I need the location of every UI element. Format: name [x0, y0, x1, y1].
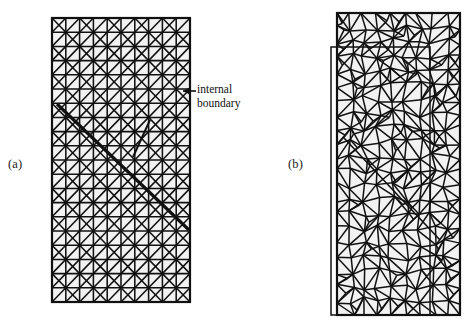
mesh-b-edge [447, 84, 460, 85]
mesh-b-edge [351, 242, 366, 258]
mesh-a-diagonal-edge [93, 259, 107, 273]
mesh-b-edge [405, 301, 419, 303]
mesh-b-edge [421, 130, 434, 145]
mesh-b-edge [402, 100, 421, 102]
mesh-b-edge [417, 230, 436, 245]
mesh-b-edge [365, 169, 377, 183]
mesh-a-diagonal-edge [93, 132, 107, 146]
mesh-b-edge [421, 82, 428, 88]
mesh-b-edge [395, 196, 408, 202]
mesh-b-edge [337, 245, 349, 257]
mesh-b-edge [337, 13, 350, 31]
mesh-a-diagonal-edge [149, 259, 163, 273]
mesh-b-edge [346, 128, 351, 135]
mesh-b-edge [337, 40, 353, 56]
mesh-b-edge [353, 74, 365, 82]
mesh-b-edge [448, 229, 460, 230]
mesh-a-diagonal-edge [121, 203, 135, 217]
mesh-b-edge [420, 100, 422, 118]
mesh-b-edge [434, 84, 435, 95]
mesh-a-diagonal-edge [121, 132, 135, 146]
mesh-b-edge [350, 199, 363, 202]
mesh-a-diagonal-edge [162, 103, 176, 117]
mesh-b-edge [448, 300, 449, 315]
mesh-b-edge [448, 13, 450, 26]
mesh-b-edge [423, 135, 426, 138]
annotation-leader-group [183, 88, 196, 94]
mesh-a-diagonal-edge [149, 203, 163, 217]
mesh-b-edge [348, 155, 366, 173]
mesh-b-edge [361, 146, 368, 159]
mesh-a-diagonal-edge [80, 174, 94, 188]
mesh-a-diagonal-edge [135, 146, 149, 160]
mesh-b-edge [353, 54, 365, 75]
mesh-b-edge [380, 196, 395, 197]
mesh-b-edge [377, 169, 391, 173]
mesh-b-edge [448, 229, 453, 238]
mesh-b-edge [376, 126, 380, 143]
mesh-b-edge [353, 274, 364, 290]
mesh-a-diagonal-edge [176, 259, 190, 273]
mesh-a-diagonal-edge [135, 188, 149, 202]
mesh-b-edge [337, 140, 350, 145]
mesh-b-edge [375, 13, 387, 21]
mesh-a-diagonal-edge [66, 61, 80, 75]
mesh-b-edge [406, 25, 414, 35]
mesh-b-edge [443, 256, 453, 266]
mesh-b-edge [337, 278, 347, 284]
mesh-b-edge [432, 112, 445, 130]
mesh-a-diagonal-edge [135, 61, 149, 75]
mesh-a-diagonal-edge [107, 103, 121, 117]
mesh-b-edge [390, 68, 406, 82]
mesh-b-edge [354, 297, 363, 315]
mesh-a-diagonal-edge [93, 288, 107, 302]
mesh-b-edge [419, 255, 435, 257]
mesh-b-edge [392, 124, 394, 139]
mesh-a-diagonal-edge [121, 46, 135, 60]
mesh-b-edge [390, 270, 391, 286]
mesh-b-edge [446, 173, 460, 185]
mesh-b-edge [409, 29, 423, 42]
mesh-b-edge [351, 128, 361, 146]
mesh-b-edge [381, 83, 391, 86]
mesh-b-edge [430, 187, 443, 201]
mesh-a-diagonal-edge [52, 46, 66, 60]
figure-canvas: (a) (b) internal boundary [0, 0, 475, 324]
mesh-b-edge [455, 30, 460, 37]
mesh-a-diagonal-edge [80, 231, 94, 245]
mesh-a-diagonal-edge [52, 103, 66, 117]
mesh-b-edge [434, 131, 446, 145]
mesh-b-edge [443, 103, 447, 113]
mesh-a-diagonal-edge [107, 132, 121, 146]
mesh-a-diagonal-edge [162, 75, 176, 89]
mesh-b-edge [402, 230, 407, 243]
mesh-b-edge [387, 13, 390, 21]
mesh-a-diagonal-edge [52, 259, 66, 273]
mesh-b-edge [364, 113, 367, 131]
mesh-a-diagonal-edge [80, 103, 94, 117]
mesh-a-diagonal-edge [93, 288, 107, 302]
mesh-a-diagonal-edge [121, 174, 135, 188]
mesh-b-edge [377, 159, 393, 169]
mesh-b-edge [363, 255, 379, 268]
mesh-b-edge [364, 222, 369, 231]
mesh-b-edge [450, 26, 460, 30]
mesh-b-edge [405, 290, 416, 301]
mesh-b-edge [408, 257, 419, 261]
mesh-a-diagonal-edge [149, 61, 163, 75]
mesh-b-edge [344, 40, 353, 49]
mesh-a-diagonal-edge [80, 160, 94, 174]
mesh-b-edge [346, 287, 354, 293]
internal-boundary-branch-a [133, 120, 150, 157]
mesh-a-diagonal-edge [121, 259, 135, 273]
mesh-b-edge [406, 74, 416, 82]
mesh-b-edge [416, 285, 433, 290]
mesh-b-edge [405, 285, 407, 300]
mesh-b-edge [353, 30, 366, 40]
mesh-b-edge [390, 13, 399, 22]
mesh-b-edge [349, 202, 363, 211]
mesh-a-diagonal-edge [121, 288, 135, 302]
mesh-b-edge [436, 245, 438, 249]
mesh-a-diagonal-edge [121, 117, 135, 131]
mesh-a-diagonal-edge [52, 32, 66, 46]
